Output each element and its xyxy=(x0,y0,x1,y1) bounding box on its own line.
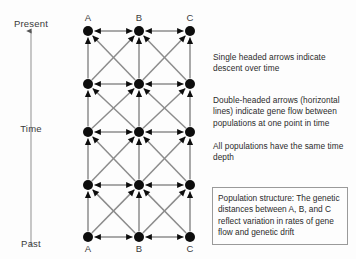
annotation-time-depth: All populations have the same time depth xyxy=(213,141,355,164)
annotation-population-structure-box: Population structure: The genetic distan… xyxy=(212,187,348,245)
column-label-bottom-a: A xyxy=(78,243,98,254)
lattice-graph xyxy=(60,6,220,256)
axis-label-past: Past xyxy=(0,238,62,249)
column-label-top-b: B xyxy=(129,12,149,23)
axis-label-present: Present xyxy=(0,18,62,29)
diagram-page: Present Time Past A B C A B C Single hea… xyxy=(0,0,356,259)
population-node-a-t2 xyxy=(83,127,93,137)
column-label-bottom-c: C xyxy=(180,243,200,254)
population-node-c-t3 xyxy=(185,180,195,190)
population-node-b-t3 xyxy=(134,180,144,190)
population-node-a-t1 xyxy=(83,79,93,89)
population-node-a-t0 xyxy=(83,26,93,36)
population-node-c-t0 xyxy=(185,26,195,36)
annotation-single-headed-arrows: Single headed arrows indicate descent ov… xyxy=(213,52,355,75)
population-node-b-t1 xyxy=(134,79,144,89)
population-node-c-t1 xyxy=(185,79,195,89)
population-lattice: A B C A B C xyxy=(60,6,220,256)
column-label-bottom-b: B xyxy=(129,243,149,254)
population-node-a-t3 xyxy=(83,180,93,190)
population-node-b-t2 xyxy=(134,127,144,137)
time-axis-arrow-svg xyxy=(0,18,62,250)
population-node-c-t4 xyxy=(185,232,195,242)
population-node-a-t4 xyxy=(83,232,93,242)
annotation-double-headed-arrows: Double-headed arrows (horizontal lines) … xyxy=(213,95,355,129)
population-node-b-t4 xyxy=(134,232,144,242)
column-label-top-c: C xyxy=(180,12,200,23)
axis-label-time: Time xyxy=(0,123,62,134)
population-node-b-t0 xyxy=(134,26,144,36)
population-node-c-t2 xyxy=(185,127,195,137)
column-label-top-a: A xyxy=(78,12,98,23)
time-axis: Present Time Past xyxy=(0,18,62,250)
